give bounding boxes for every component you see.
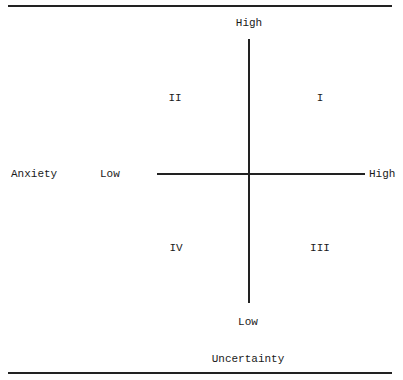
top-rule: [8, 5, 392, 7]
quadrant-iii-label: III: [310, 242, 330, 254]
bottom-rule: [8, 372, 392, 374]
quadrant-i-label: I: [317, 92, 324, 104]
vertical-axis-title: Uncertainty: [212, 353, 285, 365]
quadrant-ii-label: II: [168, 92, 181, 104]
vertical-axis-low-label: Low: [238, 316, 258, 328]
horizontal-axis-high-label: High: [369, 168, 395, 180]
horizontal-axis-title: Anxiety: [11, 168, 57, 180]
vertical-axis-line: [248, 39, 250, 303]
quadrant-iv-label: IV: [169, 242, 182, 254]
vertical-axis-high-label: High: [236, 17, 262, 29]
horizontal-axis-line: [157, 173, 365, 175]
horizontal-axis-low-label: Low: [100, 168, 120, 180]
